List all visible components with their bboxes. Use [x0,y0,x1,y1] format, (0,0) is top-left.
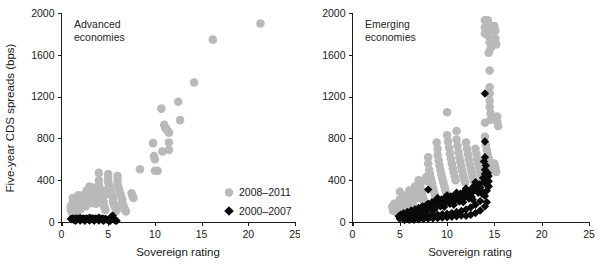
legend-label-2008-2011: 2008–2011 [239,186,291,198]
data-point-2008-2011 [129,194,138,203]
x-tick-label: 0 [350,228,356,240]
panel-title-line2: economies [74,31,125,43]
legend: 2008–2011 2000–2007 [224,186,292,217]
y-tick-label: 2000 [322,7,346,19]
legend-label-2000-2007: 2000–2007 [239,205,292,217]
data-point-2008-2011 [190,78,199,87]
data-point-2008-2011 [485,66,494,75]
data-point-2008-2011 [452,127,461,136]
data-point-2008-2011 [492,40,501,49]
y-tick-label: 1600 [31,49,55,61]
panel-emerging-economies: 0400800120016002000 0510152025 Emerging … [300,0,601,267]
x-tick-label: 15 [489,228,501,240]
legend-circle-icon [225,188,233,196]
panel-advanced-economies: Five-year CDS spreads (bps) 040080012001… [0,0,300,267]
data-point-2008-2011 [165,146,174,155]
y-axis-ticks: 0400800120016002000 [322,7,352,228]
data-point-2008-2011 [494,122,503,131]
data-point-2008-2011 [95,169,104,178]
x-axis-title: Sovereign rating [136,246,220,258]
y-tick-label: 400 [328,174,346,186]
y-tick-label: 1200 [31,90,55,102]
y-axis-title: Five-year CDS spreads (bps) [4,43,16,192]
data-point-2008-2011 [122,207,131,216]
x-tick-label: 15 [196,228,208,240]
data-point-2008-2011 [209,35,218,44]
x-tick-label: 0 [59,228,65,240]
y-tick-label: 800 [328,132,346,144]
y-tick-label: 1600 [322,49,346,61]
figure-container: Five-year CDS spreads (bps) 040080012001… [0,0,601,267]
x-tick-label: 25 [583,228,595,240]
data-point-2008-2011 [157,104,166,113]
y-axis-ticks: 0400800120016002000 [31,7,61,228]
x-axis-ticks: 0510152025 [350,222,595,240]
x-tick-label: 10 [149,228,161,240]
data-point-2008-2011 [153,167,162,176]
y-tick-label: 400 [37,174,55,186]
panel-title-line2: economies [365,31,416,43]
data-point-2008-2011 [149,139,158,148]
x-tick-label: 5 [397,228,403,240]
y-tick-label: 800 [37,132,55,144]
advanced-economies-plot: Five-year CDS spreads (bps) 040080012001… [0,0,300,267]
series-2008-2011-points [67,19,265,220]
x-tick-label: 10 [441,228,453,240]
emerging-economies-plot: 0400800120016002000 0510152025 Emerging … [300,0,601,267]
data-point-2008-2011 [165,128,174,137]
data-point-2008-2011 [493,112,502,121]
data-point-2008-2011 [174,98,183,107]
panel-title-line1: Emerging [365,18,410,30]
x-tick-label: 25 [289,228,300,240]
data-point-2008-2011 [443,108,452,117]
panel-title-line1: Advanced [74,18,121,30]
x-axis-ticks: 0510152025 [59,222,300,240]
data-point-2008-2011 [176,116,185,125]
legend-diamond-icon [224,206,234,215]
data-point-2008-2011 [256,19,265,28]
y-tick-label: 0 [340,216,346,228]
data-point-2008-2011 [492,168,501,177]
data-point-2008-2011 [491,26,500,35]
y-tick-label: 1200 [322,90,346,102]
y-tick-label: 0 [49,216,55,228]
x-tick-label: 20 [242,228,254,240]
data-point-2008-2011 [165,138,174,147]
y-tick-label: 2000 [31,7,55,19]
data-point-2008-2011 [136,165,145,174]
data-point-2008-2011 [451,176,460,185]
x-tick-label: 5 [105,228,111,240]
x-axis-title: Sovereign rating [428,246,512,258]
x-tick-label: 20 [536,228,548,240]
data-point-2008-2011 [461,178,470,187]
data-point-2008-2011 [101,206,110,215]
data-point-2008-2011 [151,155,160,164]
